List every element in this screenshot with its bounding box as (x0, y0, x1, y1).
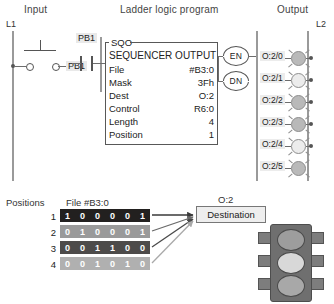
traffic-light-red-lens[interactable] (277, 229, 305, 251)
destination-box[interactable]: Destination (196, 206, 266, 223)
traffic-light-visor-green-right (310, 278, 324, 290)
diagram-canvas: Input Ladder logic program Output L1 L2 … (0, 0, 334, 304)
traffic-light-green-lens[interactable] (277, 275, 305, 297)
traffic-light-yellow-lens[interactable] (277, 252, 305, 274)
traffic-light-visor-red-right (310, 232, 324, 244)
traffic-light-visor-yellow-right (310, 255, 324, 267)
destination-address: O:2 (218, 194, 233, 205)
